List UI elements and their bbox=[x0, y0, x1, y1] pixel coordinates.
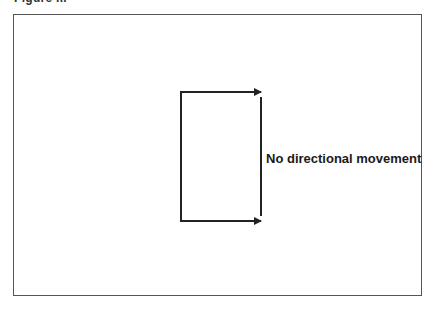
diagram-label: No directional movement bbox=[266, 151, 421, 166]
